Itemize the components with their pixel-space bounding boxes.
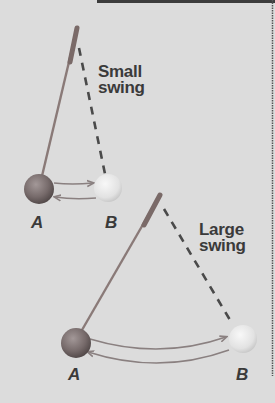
diagram-graphics: [0, 0, 275, 403]
large-swing-label-line2: swing: [199, 238, 246, 254]
large-ball-b: [229, 325, 257, 353]
small-arrow-to-b: [54, 183, 93, 184]
small-arrow-to-a: [55, 197, 96, 199]
large-point-b-label: B: [236, 366, 248, 383]
large-arrow-to-a: [88, 350, 229, 363]
small-ball-b: [94, 174, 122, 202]
large-swing-label: Large swing: [199, 222, 246, 254]
pendulum-diagram: Small swing A B Large swing A B: [0, 0, 275, 403]
small-point-a-label: A: [31, 214, 43, 231]
small-ball-a: [24, 174, 54, 204]
small-pendulum: [24, 28, 122, 204]
large-point-a-label: A: [68, 366, 80, 383]
large-rod-top: [144, 195, 160, 225]
small-swing-label: Small swing: [98, 64, 145, 96]
top-bar: [97, 0, 275, 3]
large-arrow-to-b: [90, 337, 226, 349]
small-swing-label-line2: swing: [98, 80, 145, 96]
small-rod-top: [70, 28, 77, 62]
large-ball-a: [61, 328, 91, 358]
small-point-b-label: B: [105, 214, 117, 231]
